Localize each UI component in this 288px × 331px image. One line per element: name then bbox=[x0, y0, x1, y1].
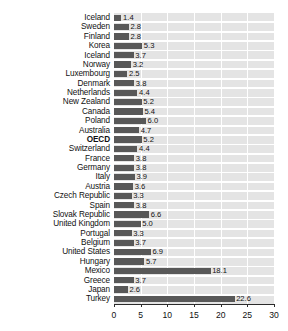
bar-value-label: 3.2 bbox=[131, 60, 143, 69]
bar-track: 18.1 bbox=[114, 266, 274, 275]
bar-track: 5.0 bbox=[114, 219, 274, 228]
bar bbox=[114, 165, 134, 171]
bar bbox=[114, 277, 134, 283]
bar bbox=[114, 24, 129, 30]
category-label: Denmark bbox=[0, 79, 110, 88]
bar-value-label: 2.8 bbox=[129, 32, 141, 41]
bar-value-label: 3.3 bbox=[132, 229, 144, 238]
x-tick-label: 25 bbox=[243, 310, 253, 320]
chart-row: Switzerland4.4 bbox=[0, 144, 288, 153]
bar bbox=[114, 296, 235, 302]
chart-row: Denmark3.8 bbox=[0, 79, 288, 88]
category-label: Belgium bbox=[0, 238, 110, 247]
bar-track: 3.3 bbox=[114, 229, 274, 238]
bar-value-label: 5.7 bbox=[144, 257, 156, 266]
bar bbox=[114, 61, 131, 67]
bar-value-label: 3.8 bbox=[134, 79, 146, 88]
bar-value-label: 3.8 bbox=[134, 154, 146, 163]
bar bbox=[114, 268, 211, 274]
bar-value-label: 22.6 bbox=[235, 294, 251, 303]
category-label: Mexico bbox=[0, 266, 110, 275]
x-tick-20 bbox=[221, 304, 222, 307]
bar bbox=[114, 193, 132, 199]
bar-track: 3.8 bbox=[114, 201, 274, 210]
bar-value-label: 18.1 bbox=[211, 266, 227, 275]
bar bbox=[114, 221, 141, 227]
bar-track: 2.6 bbox=[114, 285, 274, 294]
category-label: Japan bbox=[0, 285, 110, 294]
chart-row: United Kingdom5.0 bbox=[0, 219, 288, 228]
category-label: Canada bbox=[0, 107, 110, 116]
x-tick-label: 15 bbox=[189, 310, 199, 320]
bar bbox=[114, 15, 121, 21]
category-label: Norway bbox=[0, 60, 110, 69]
bar-track: 3.7 bbox=[114, 276, 274, 285]
chart-row: Slovak Republic6.6 bbox=[0, 210, 288, 219]
bar bbox=[114, 211, 149, 217]
chart-row: Belgium3.7 bbox=[0, 238, 288, 247]
bar bbox=[114, 286, 128, 292]
bar-track: 4.4 bbox=[114, 88, 274, 97]
category-label: Netherlands bbox=[0, 88, 110, 97]
category-label: Italy bbox=[0, 172, 110, 181]
chart-row: Luxembourg2.5 bbox=[0, 69, 288, 78]
bar-value-label: 4.4 bbox=[137, 144, 149, 153]
category-label: Slovak Republic bbox=[0, 210, 110, 219]
bar-value-label: 5.3 bbox=[142, 41, 154, 50]
bar bbox=[114, 146, 137, 152]
bar bbox=[114, 99, 142, 105]
category-label: Turkey bbox=[0, 294, 110, 303]
bar bbox=[114, 174, 135, 180]
bar-track: 3.3 bbox=[114, 191, 274, 200]
bar bbox=[114, 127, 139, 133]
bar-value-label: 1.4 bbox=[121, 13, 133, 22]
bar bbox=[114, 108, 143, 114]
category-label: Australia bbox=[0, 126, 110, 135]
chart-row: United States6.9 bbox=[0, 247, 288, 256]
bar bbox=[114, 240, 134, 246]
chart-row: Mexico18.1 bbox=[0, 266, 288, 275]
bar-track: 5.4 bbox=[114, 107, 274, 116]
bar-track: 2.8 bbox=[114, 32, 274, 41]
bar-value-label: 5.2 bbox=[142, 135, 154, 144]
x-tick-label: 20 bbox=[216, 310, 226, 320]
bar-value-label: 3.9 bbox=[135, 172, 147, 181]
chart-row: Norway3.2 bbox=[0, 60, 288, 69]
chart-row: Greece3.7 bbox=[0, 276, 288, 285]
bar-value-label: 5.2 bbox=[142, 97, 154, 106]
bar bbox=[114, 43, 142, 49]
x-tick-label: 0 bbox=[112, 310, 117, 320]
bar bbox=[114, 136, 142, 142]
bar-track: 6.9 bbox=[114, 247, 274, 256]
chart-row: Germany3.8 bbox=[0, 163, 288, 172]
category-label: Poland bbox=[0, 116, 110, 125]
bar-value-label: 4.4 bbox=[137, 88, 149, 97]
bar bbox=[114, 155, 134, 161]
bar-track: 3.6 bbox=[114, 182, 274, 191]
chart-row: Poland6.0 bbox=[0, 116, 288, 125]
bar bbox=[114, 258, 144, 264]
bar-value-label: 3.6 bbox=[133, 182, 145, 191]
category-label: Hungary bbox=[0, 257, 110, 266]
category-label: Luxembourg bbox=[0, 69, 110, 78]
x-tick-15 bbox=[194, 304, 195, 307]
x-tick-label: 10 bbox=[163, 310, 173, 320]
bar bbox=[114, 80, 134, 86]
bar bbox=[114, 249, 151, 255]
bar-track: 5.2 bbox=[114, 135, 274, 144]
category-label: Portugal bbox=[0, 229, 110, 238]
bar bbox=[114, 183, 133, 189]
bar-track: 3.7 bbox=[114, 51, 274, 60]
category-label: Germany bbox=[0, 163, 110, 172]
x-tick-5 bbox=[141, 304, 142, 307]
x-tick-25 bbox=[247, 304, 248, 307]
bar-value-label: 5.4 bbox=[143, 107, 155, 116]
bar-track: 3.2 bbox=[114, 60, 274, 69]
category-label: Czech Republic bbox=[0, 191, 110, 200]
bar-value-label: 3.3 bbox=[132, 191, 144, 200]
category-label: United Kingdom bbox=[0, 219, 110, 228]
bar-track: 5.2 bbox=[114, 97, 274, 106]
bar-track: 3.9 bbox=[114, 172, 274, 181]
bar-track: 3.8 bbox=[114, 79, 274, 88]
category-label: Spain bbox=[0, 201, 110, 210]
